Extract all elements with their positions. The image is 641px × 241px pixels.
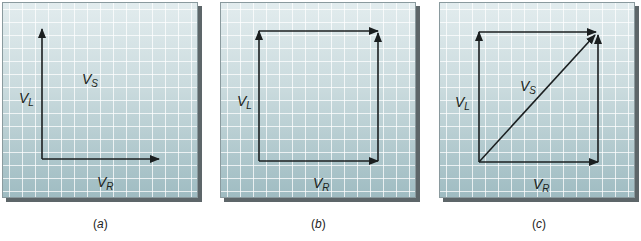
vl-label: VL	[455, 95, 470, 112]
vl-label: VL	[237, 94, 252, 111]
vs-resultant-arrow	[479, 35, 595, 162]
vr-label: VR	[97, 175, 114, 192]
phasor-panel-a: VL VS VR	[2, 2, 198, 198]
phasor-panel-c: VL VS VR	[439, 2, 635, 198]
vr-label: VR	[313, 176, 330, 193]
phasor-panel-b: VL VR	[220, 2, 416, 198]
vs-label: VS	[520, 79, 536, 96]
vl-label: VL	[19, 91, 34, 108]
caption-c: (c)	[532, 217, 546, 231]
caption-b: (b)	[311, 217, 326, 231]
vs-label: VS	[82, 72, 98, 89]
caption-a: (a)	[93, 217, 108, 231]
vr-label: VR	[533, 177, 550, 194]
